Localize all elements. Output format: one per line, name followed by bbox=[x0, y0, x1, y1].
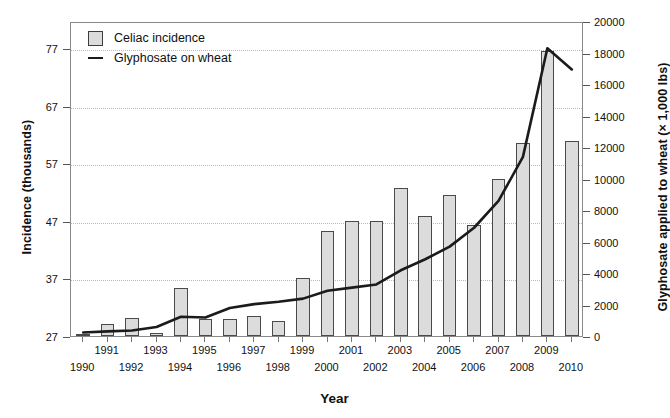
y-tick-label-left: 47 bbox=[12, 216, 58, 228]
y-tick-mark-right bbox=[583, 180, 590, 181]
x-tick-label: 2001 bbox=[339, 344, 363, 356]
x-tick-label: 2008 bbox=[510, 361, 534, 373]
x-tick-label: 1994 bbox=[168, 361, 192, 373]
legend-label-celiac: Celiac incidence bbox=[114, 31, 205, 45]
y-tick-label-left: 37 bbox=[12, 273, 58, 285]
y-tick-mark-left bbox=[63, 279, 70, 280]
legend-swatch-icon bbox=[88, 31, 103, 46]
legend-item-glyphosate: Glyphosate on wheat bbox=[88, 48, 231, 68]
y-tick-mark-right bbox=[583, 337, 590, 338]
y-tick-mark-right bbox=[583, 54, 590, 55]
y-tick-mark-right bbox=[583, 85, 590, 86]
line-series bbox=[71, 23, 584, 338]
y-tick-label-right: 16000 bbox=[594, 79, 654, 91]
y-tick-mark-left bbox=[63, 107, 70, 108]
y-tick-label-right: 14000 bbox=[594, 111, 654, 123]
legend-label-glyphosate: Glyphosate on wheat bbox=[114, 51, 231, 65]
y-tick-mark-left bbox=[63, 49, 70, 50]
y-tick-mark-right bbox=[583, 22, 590, 23]
x-axis-title: Year bbox=[0, 391, 669, 406]
y-tick-label-right: 12000 bbox=[594, 142, 654, 154]
y-tick-label-right: 4000 bbox=[594, 268, 654, 280]
x-tick-label: 1993 bbox=[143, 344, 167, 356]
x-tick-label: 2005 bbox=[436, 344, 460, 356]
y-tick-label-left: 57 bbox=[12, 158, 58, 170]
y-tick-mark-left bbox=[63, 337, 70, 338]
x-tick-label: 2006 bbox=[461, 361, 485, 373]
y-tick-label-left: 77 bbox=[12, 43, 58, 55]
y-tick-mark-left bbox=[63, 222, 70, 223]
y-tick-label-right: 18000 bbox=[594, 48, 654, 60]
x-tick-label: 1996 bbox=[217, 361, 241, 373]
x-tick-label: 1991 bbox=[94, 344, 118, 356]
x-tick-label: 1990 bbox=[70, 361, 94, 373]
y-tick-mark-right bbox=[583, 117, 590, 118]
glyphosate-line bbox=[83, 48, 572, 332]
x-tick-label: 1999 bbox=[290, 344, 314, 356]
y-tick-mark-left bbox=[63, 164, 70, 165]
y-tick-mark-right bbox=[583, 306, 590, 307]
legend-line-icon bbox=[88, 57, 103, 59]
y-tick-mark-right bbox=[583, 274, 590, 275]
y-axis-right-title: Glyphosate applied to wheat (× 1,000 lbs… bbox=[656, 32, 670, 342]
y-tick-label-right: 10000 bbox=[594, 174, 654, 186]
y-axis-left-title: Incidence (thousands) bbox=[20, 72, 34, 302]
x-tick-label: 1997 bbox=[241, 344, 265, 356]
x-tick-label: 2009 bbox=[534, 344, 558, 356]
x-tick-label: 1998 bbox=[265, 361, 289, 373]
y-tick-label-right: 0 bbox=[594, 331, 654, 343]
y-tick-label-right: 8000 bbox=[594, 205, 654, 217]
y-tick-label-left: 67 bbox=[12, 101, 58, 113]
y-tick-label-right: 2000 bbox=[594, 300, 654, 312]
y-tick-mark-right bbox=[583, 243, 590, 244]
plot-area bbox=[70, 22, 583, 337]
y-tick-mark-right bbox=[583, 148, 590, 149]
x-tick-label: 2002 bbox=[363, 361, 387, 373]
y-tick-label-right: 6000 bbox=[594, 237, 654, 249]
x-tick-label: 1995 bbox=[192, 344, 216, 356]
x-tick-label: 1992 bbox=[119, 361, 143, 373]
y-tick-label-left: 27 bbox=[12, 331, 58, 343]
x-tick-label: 2003 bbox=[388, 344, 412, 356]
x-tick-label: 2004 bbox=[412, 361, 436, 373]
y-tick-mark-right bbox=[583, 211, 590, 212]
x-tick-label: 2010 bbox=[559, 361, 583, 373]
x-tick-label: 2000 bbox=[314, 361, 338, 373]
legend-item-celiac: Celiac incidence bbox=[88, 28, 231, 48]
x-tick-label: 2007 bbox=[485, 344, 509, 356]
chart-legend: Celiac incidence Glyphosate on wheat bbox=[88, 28, 231, 68]
y-tick-label-right: 20000 bbox=[594, 16, 654, 28]
